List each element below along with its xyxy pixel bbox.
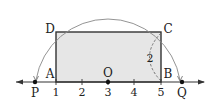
label-p: P bbox=[31, 86, 39, 100]
point-p bbox=[33, 80, 37, 84]
tick-label-5: 5 bbox=[158, 86, 165, 99]
label-b: B bbox=[164, 67, 173, 81]
tick-label-2: 2 bbox=[79, 86, 86, 99]
label-q: Q bbox=[177, 86, 187, 100]
label-length-bc: 2 bbox=[147, 52, 154, 65]
point-q bbox=[180, 80, 184, 84]
label-o: O bbox=[103, 66, 113, 80]
label-a: A bbox=[45, 67, 55, 81]
number-line-diagram: 1 2 3 4 5 P Q O A B C D 2 bbox=[0, 0, 214, 103]
axis-left-arrow-icon bbox=[16, 80, 23, 85]
label-c: C bbox=[163, 22, 172, 36]
tick-label-1: 1 bbox=[53, 86, 60, 99]
axis-right-arrow-icon bbox=[198, 80, 205, 85]
point-o bbox=[106, 80, 110, 84]
tick-label-3: 3 bbox=[105, 86, 112, 99]
tick-label-4: 4 bbox=[131, 86, 138, 99]
label-d: D bbox=[45, 22, 55, 36]
